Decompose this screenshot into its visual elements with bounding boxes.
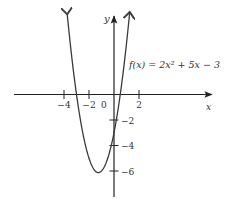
x-axis-label: x <box>206 102 211 112</box>
y-tick-label: −4 <box>121 141 135 151</box>
y-ticks: −2−4−6 <box>110 116 135 177</box>
function-label: f(x) = 2x² + 5x − 3 <box>128 59 220 70</box>
x-tick-label: −2 <box>82 100 95 110</box>
y-tick-label: −6 <box>121 167 135 177</box>
x-tick-label: −4 <box>57 100 71 110</box>
x-tick-label: 2 <box>136 100 142 110</box>
y-axis-label: y <box>103 13 110 24</box>
y-tick-label: −2 <box>121 116 134 126</box>
x-ticks: −4−22 <box>57 90 142 110</box>
origin-label: 0 <box>101 100 107 110</box>
parabola-chart: −4−22 −2−4−6 y x 0 f(x) = 2x² + 5x − 3 <box>0 0 235 206</box>
